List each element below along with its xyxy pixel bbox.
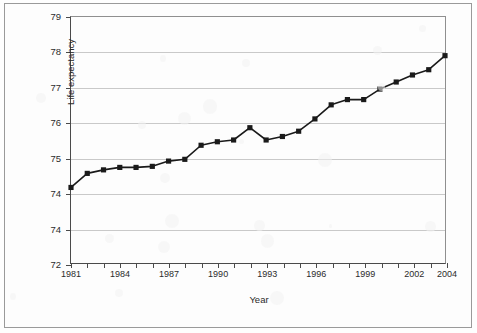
data-point-marker	[280, 134, 285, 139]
scan-artifact	[242, 59, 250, 67]
data-point-marker	[150, 164, 155, 169]
data-point-marker	[117, 165, 122, 170]
x-axis-tick-mark	[300, 263, 301, 268]
x-axis-tick-mark	[365, 263, 366, 268]
scan-artifact	[165, 214, 179, 228]
chart-figure: 7274747576777879 19811984198719901993199…	[0, 0, 477, 333]
x-axis-tick-mark	[431, 263, 432, 268]
scan-artifact	[378, 83, 385, 90]
x-axis-tick-mark	[202, 263, 203, 268]
y-axis-tick-label: 74	[19, 225, 61, 235]
x-axis-tick-mark	[349, 263, 350, 268]
y-axis-tick-label: 75	[19, 154, 61, 164]
y-axis-tick-label: 76	[19, 118, 61, 128]
x-axis-tick-mark	[169, 263, 170, 268]
data-point-marker	[264, 137, 269, 142]
x-axis-tick-mark	[136, 263, 137, 268]
data-point-marker	[247, 125, 252, 130]
x-axis-tick-mark	[267, 263, 268, 268]
scan-artifact	[261, 234, 275, 248]
x-axis-tick-mark	[71, 263, 72, 268]
x-axis-tick-label: 1984	[98, 269, 142, 279]
scan-artifact	[36, 93, 46, 103]
data-point-marker	[426, 67, 431, 72]
data-point-marker	[345, 97, 350, 102]
y-axis-tick-label: 77	[19, 83, 61, 93]
data-point-marker	[198, 143, 203, 148]
x-axis-tick-mark	[153, 263, 154, 268]
x-axis-tick-mark	[447, 263, 448, 268]
y-axis-tick-label: 74	[19, 189, 61, 199]
x-axis-tick-label: 1993	[245, 269, 289, 279]
y-axis-tick-label: 78	[19, 47, 61, 57]
x-axis-tick-mark	[104, 263, 105, 268]
x-axis-tick-label: 1996	[294, 269, 338, 279]
series-line	[71, 56, 445, 188]
x-axis-tick-label: 1990	[196, 269, 240, 279]
scan-artifact	[160, 173, 170, 183]
x-axis-tick-mark	[333, 263, 334, 268]
data-point-marker	[85, 171, 90, 176]
y-axis-title: Life expectancy	[65, 39, 76, 105]
y-axis-tick-label: 79	[19, 12, 61, 22]
data-point-marker	[410, 72, 415, 77]
x-axis-tick-mark	[382, 263, 383, 268]
x-axis-tick-label: 2004	[425, 269, 469, 279]
data-point-marker	[101, 167, 106, 172]
x-axis-tick-mark	[251, 263, 252, 268]
scan-artifact	[203, 99, 217, 113]
x-axis-tick-mark	[284, 263, 285, 268]
x-axis-title: Year	[71, 294, 447, 305]
data-point-marker	[329, 102, 334, 107]
data-point-marker	[394, 79, 399, 84]
scan-artifact	[318, 153, 332, 167]
data-point-marker	[296, 129, 301, 134]
x-axis-tick-label: 1999	[343, 269, 387, 279]
x-axis-tick-mark	[185, 263, 186, 268]
data-point-marker	[442, 53, 447, 58]
data-point-marker	[182, 157, 187, 162]
x-axis-tick-mark	[218, 263, 219, 268]
scan-artifact	[178, 112, 191, 125]
x-axis-tick-label: 1987	[147, 269, 191, 279]
data-point-marker	[166, 159, 171, 164]
scan-artifact	[254, 220, 265, 231]
data-point-marker	[312, 116, 317, 121]
x-axis-tick-mark	[316, 263, 317, 268]
scan-artifact	[138, 121, 146, 129]
data-point-marker	[361, 97, 366, 102]
x-axis-tick-mark	[414, 263, 415, 268]
data-point-marker	[231, 137, 236, 142]
series-markers	[68, 53, 447, 190]
x-axis-tick-mark	[120, 263, 121, 268]
x-axis-tick-mark	[398, 263, 399, 268]
scan-artifact	[160, 55, 167, 62]
data-point-marker	[133, 165, 138, 170]
x-axis-tick-mark	[87, 263, 88, 268]
data-point-marker	[215, 139, 220, 144]
x-axis-tick-mark	[234, 263, 235, 268]
scan-artifact	[270, 291, 284, 305]
data-point-marker	[68, 185, 73, 190]
x-axis-tick-label: 1981	[49, 269, 93, 279]
